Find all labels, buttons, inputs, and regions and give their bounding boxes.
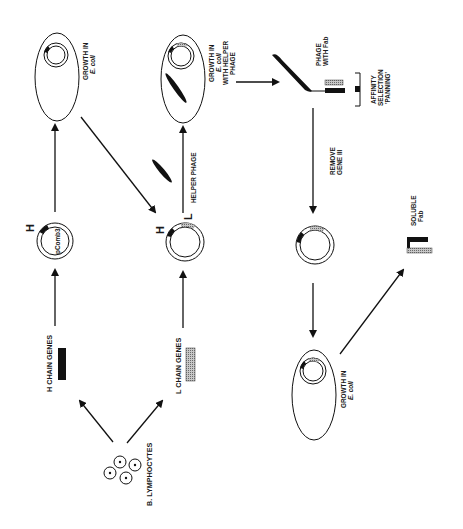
growth-ecoli-1-label-line2: E. coli [89, 55, 96, 74]
affinity-label-line2: SELECTION [377, 69, 384, 106]
growth-ecoli-2-label-line1: GROWTH IN [340, 370, 347, 408]
lymphocyte-cell [129, 459, 141, 471]
l-chain-gene-block [186, 348, 195, 381]
ecoli-cell-1 [35, 33, 79, 121]
remove-gene-label-line1: REMOVE [329, 147, 336, 175]
lymphocyte-cell [120, 472, 132, 484]
soluble-fab-label-line2: Fab [417, 211, 424, 222]
l-chain-genes-label: L CHAIN GENES [174, 338, 183, 394]
ecoli-helper-cell [161, 35, 205, 123]
growth-helper-label-line2: E. coli [215, 53, 222, 72]
l-marker: L [182, 213, 194, 220]
lymphocyte-cell [104, 467, 116, 479]
growth-ecoli-2-label-line2: E. coli [347, 381, 354, 400]
growth-helper-label-line1: GROWTH IN [208, 44, 215, 82]
growth-helper-label-line3: WITH HELPER [222, 41, 229, 85]
growth-ecoli-1-label-line1: GROWTH IN [82, 42, 89, 80]
pcomb3-label: pComb3 [54, 228, 62, 254]
b-lymphocytes-label: B. LYMPHOCYTES [145, 443, 154, 506]
soluble-fab-label-line1: SOLUBLE [410, 195, 417, 226]
ecoli-cell-2 [292, 350, 336, 440]
lymphocyte-cell [114, 456, 126, 468]
arrow-lymph-to-l [127, 401, 162, 443]
h-marker-1: H [24, 224, 36, 232]
remove-gene-label-line2: GENE III [336, 150, 343, 175]
growth-helper-label-line4: PHAGE [229, 52, 236, 75]
phage-with-fab-label-line2: WITH Fab [322, 36, 329, 66]
affinity-label-line1: AFFINITY [370, 75, 377, 104]
antigen-panning-icon [355, 73, 360, 106]
b-lymphocytes-cluster [104, 456, 141, 484]
arrow-ecoli-1-to-pcomb3-hl [81, 117, 155, 212]
soluble-fab-icon [407, 237, 432, 253]
pcomb3-hl-plasmid [166, 223, 204, 261]
plasmid-no-gene-iii [296, 226, 334, 264]
arrow-ecoli-2-to-soluble-fab [340, 270, 403, 354]
h-chain-genes-label: H CHAIN GENES [45, 335, 54, 392]
h-marker-2: H [154, 226, 166, 234]
helper-phage-icon [150, 158, 173, 184]
arrow-lymph-to-h [80, 401, 113, 442]
h-chain-gene-block [58, 348, 66, 380]
phage-with-fab-label-line1: PHAGE [315, 43, 322, 66]
helper-phage-label: HELPER PHAGE [190, 152, 197, 203]
phage-display-diagram: B. LYMPHOCYTES H CHAIN GENES L CHAIN GEN… [0, 0, 463, 529]
affinity-label-line3: 'PANNING' [384, 71, 391, 104]
phage-with-fab-icon [272, 54, 345, 93]
